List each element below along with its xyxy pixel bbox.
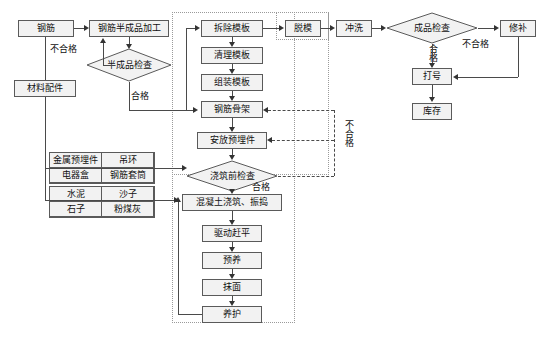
table-cell: 金属预埋件: [49, 152, 102, 168]
edge-label-buhege-2: 不合格: [344, 120, 353, 147]
node-zuzhuang-muban-label: 组装模板: [214, 78, 250, 87]
edge-chengpin-to-xiubu: [478, 28, 494, 29]
arrowhead: [229, 42, 235, 47]
arrowhead: [267, 137, 272, 143]
arrowhead: [429, 63, 435, 68]
node-anfang-yumaijian-label: 安放预埋件: [210, 136, 255, 145]
edge-label-hege-2: 合格: [252, 183, 270, 192]
node-qudong-ganping[interactable]: 驱动赶平: [202, 225, 262, 242]
edge-gangjin-down: [45, 37, 46, 80]
table-cell: 钢筋套筒: [101, 167, 154, 183]
arrowhead: [494, 25, 499, 31]
node-yuyang[interactable]: 预养: [202, 252, 262, 269]
edge-gangjin-to-jiagong: [74, 28, 84, 29]
dashed-edge-to-anfang: [272, 140, 334, 141]
decision-banchengpin-jiancha[interactable]: 半成品检查: [86, 48, 172, 82]
edge-gujia-to-anfang: [232, 118, 233, 127]
edge-jiaozhu-to-ganping: [232, 211, 233, 220]
edge-label-buhege-3: 不合格: [462, 40, 489, 49]
node-gangjin-banchengpin-jiagong-label: 钢筋半成品加工: [98, 24, 161, 33]
arrowhead: [453, 74, 458, 80]
table-cell: 电器盒: [49, 167, 102, 183]
arrowhead: [229, 274, 235, 279]
node-chongxi[interactable]: 冲洗: [336, 20, 372, 37]
node-tuomo-label: 脱模: [294, 24, 312, 33]
table-row: 电器盒 钢筋套筒: [50, 168, 154, 183]
node-kucun-label: 库存: [423, 107, 441, 116]
edge-xiubu-down: [518, 37, 519, 77]
node-anfang-yumaijian[interactable]: 安放预埋件: [197, 132, 267, 149]
node-gangjin-gujia-label: 钢筋骨架: [214, 105, 250, 114]
node-qingli-muban[interactable]: 清理模板: [201, 47, 263, 64]
edge-buhege-vertical: [103, 43, 104, 65]
edge-yanghu-left: [178, 314, 202, 315]
node-chongxi-label: 冲洗: [345, 24, 363, 33]
decision-banchengpin-jiancha-label: 半成品检查: [86, 48, 172, 82]
node-yanghu-label: 养护: [223, 310, 241, 319]
edge-label-buhege-1: 不合格: [50, 45, 77, 54]
arrowhead: [182, 165, 187, 171]
node-qudong-ganping-label: 驱动赶平: [214, 229, 250, 238]
arrowhead: [229, 96, 235, 101]
arrowhead: [263, 107, 268, 113]
edge-mould-loop-top: [186, 28, 195, 29]
node-chaichu-muban[interactable]: 拆除模板: [201, 20, 263, 37]
flowchart-canvas: 钢筋 材料配件 钢筋半成品加工 半成品检查 金属预埋件 吊环 电器盒 钢筋套筒 …: [0, 0, 546, 340]
node-dahao[interactable]: 打号: [412, 68, 452, 85]
edge-hege-right: [129, 110, 193, 111]
dashed-edge-riser: [334, 110, 335, 176]
node-yuyang-label: 预养: [223, 256, 241, 265]
node-gangjin-label: 钢筋: [37, 24, 55, 33]
arrowhead: [195, 25, 200, 31]
arrowhead: [126, 44, 132, 49]
node-xiubu-label: 修补: [509, 24, 527, 33]
node-cailiao-peijian-label: 材料配件: [27, 84, 63, 93]
edge-label-hege-1: 合格: [131, 92, 149, 101]
arrowhead: [229, 247, 235, 252]
arrowhead: [330, 25, 335, 31]
node-kucun[interactable]: 库存: [412, 103, 452, 120]
node-yanghu[interactable]: 养护: [202, 306, 262, 323]
node-tuomo[interactable]: 脱模: [285, 20, 321, 37]
edge-chaichu-to-tuomo: [263, 28, 279, 29]
table-cell: 吊环: [101, 152, 154, 168]
edge-table2-right: [45, 200, 174, 201]
arrowhead: [229, 155, 235, 160]
node-zuzhuang-muban[interactable]: 组装模板: [201, 74, 263, 91]
table-row: 金属预埋件 吊环: [50, 153, 154, 168]
node-dahao-label: 打号: [423, 72, 441, 81]
node-qingli-muban-label: 清理模板: [214, 51, 250, 60]
arrowhead: [229, 189, 235, 194]
arrowhead: [229, 301, 235, 306]
arrowhead: [100, 38, 106, 43]
table-cell: 石子: [49, 201, 102, 217]
edge-chengpin-to-dahao: [432, 44, 433, 63]
arrowhead: [279, 25, 284, 31]
node-xiubu[interactable]: 修补: [500, 20, 536, 37]
edge-xiubu-to-dahao: [458, 77, 518, 78]
node-hunningtu-jiaozhu[interactable]: 混凝土浇筑、振捣: [182, 194, 282, 211]
arrowhead: [84, 25, 89, 31]
edge-hege-down: [129, 82, 130, 110]
edge-tuomo-to-chongxi: [321, 28, 330, 29]
node-cailiao-peijian[interactable]: 材料配件: [14, 80, 76, 97]
arrowhead: [429, 97, 435, 102]
arrowhead: [175, 197, 181, 202]
edge-chongxi-to-chengpin: [372, 28, 381, 29]
arrowhead: [229, 69, 235, 74]
edge-buhege-horizontal: [103, 65, 113, 66]
arrowhead: [193, 107, 198, 113]
node-hunningtu-jiaozhu-label: 混凝土浇筑、振捣: [196, 198, 268, 207]
material-table-2: 水泥 沙子 石子 粉煤灰: [49, 186, 155, 218]
dashed-edge-to-gujia: [268, 110, 334, 111]
node-gangjin[interactable]: 钢筋: [18, 20, 74, 37]
edge-mould-loop-riser: [186, 28, 187, 110]
node-gangjin-banchengpin-jiagong[interactable]: 钢筋半成品加工: [89, 20, 169, 37]
arrowhead: [381, 25, 386, 31]
edge-yanghu-riser: [178, 202, 179, 314]
edge-cailiao-down: [45, 97, 46, 200]
node-gangjin-gujia[interactable]: 钢筋骨架: [201, 101, 263, 118]
table-row: 石子 粉煤灰: [50, 202, 154, 217]
table-cell: 粉煤灰: [101, 201, 154, 217]
node-momian[interactable]: 抹面: [202, 279, 262, 296]
